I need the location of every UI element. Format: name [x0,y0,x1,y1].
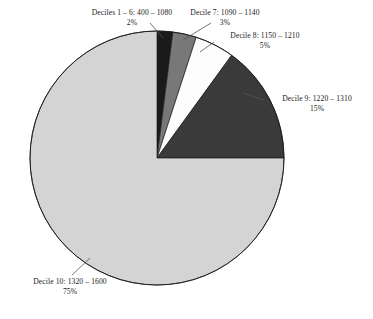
slice-label-decile-10: Decile 10: 1320 – 1600 75% [12,277,128,296]
slice-percent-text: 15% [265,104,369,114]
slice-label-decile-8: Decile 8: 1150 – 1210 5% [209,31,321,50]
slice-label-decile-9: Decile 9: 1220 – 1310 15% [265,94,369,113]
slice-label-text: Decile 8: 1150 – 1210 [230,31,299,40]
slice-label-deciles-1-6: Deciles 1 – 6: 400 – 1080 2% [74,8,190,27]
slice-percent-text: 5% [209,41,321,51]
slice-label-text: Deciles 1 – 6: 400 – 1080 [92,8,173,17]
slice-label-decile-7: Decile 7: 1090 – 1140 3% [174,8,276,27]
pie-slices [30,31,284,285]
slice-label-text: Decile 7: 1090 – 1140 [190,8,259,17]
slice-label-text: Decile 10: 1320 – 1600 [33,277,106,286]
slice-percent-text: 75% [12,287,128,297]
slice-percent-text: 3% [174,18,276,28]
leader-line-decile-10 [72,258,90,275]
slice-label-text: Decile 9: 1220 – 1310 [282,94,352,103]
slice-percent-text: 2% [74,18,190,28]
pie-chart-page: Deciles 1 – 6: 400 – 1080 2% Decile 7: 1… [0,0,373,319]
